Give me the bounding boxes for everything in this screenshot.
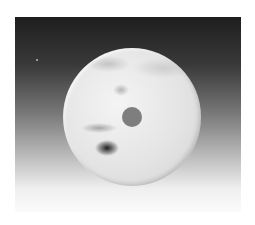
caption — [14, 216, 144, 222]
photograph — [15, 17, 241, 212]
jade-disc — [63, 48, 201, 186]
dust-speck — [36, 59, 38, 61]
disc-center-hole — [122, 107, 142, 127]
